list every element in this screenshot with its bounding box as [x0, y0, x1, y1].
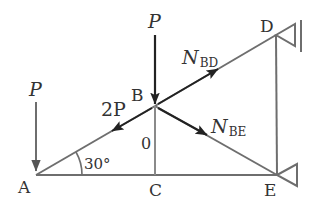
- angle-arc-icon: [76, 152, 82, 175]
- node-label-b: B: [131, 85, 144, 105]
- force-label-zero: 0: [141, 134, 151, 153]
- node-label-d: D: [260, 16, 274, 36]
- node-label-e: E: [264, 180, 276, 200]
- support-e: [277, 164, 297, 186]
- load-label-p-a: P: [28, 78, 43, 100]
- force-label-2p: 2P: [101, 98, 126, 120]
- force-arrow-nbe: [158, 108, 207, 135]
- member-de: [276, 35, 277, 175]
- pin-support-icon: [276, 24, 295, 46]
- force-label-nbd: NBD: [181, 46, 218, 70]
- force-arrow-nbd: [158, 69, 218, 104]
- support-d: [276, 20, 301, 52]
- node-label-c: C: [149, 180, 162, 200]
- angle-label: 30°: [84, 155, 111, 173]
- load-label-p-b: P: [147, 10, 162, 32]
- force-label-nbe: NBE: [210, 115, 246, 139]
- truss-members: [36, 35, 277, 175]
- truss-diagram: A B C D E P P NBD NBE 2P 0 30°: [0, 0, 326, 211]
- node-label-a: A: [17, 177, 31, 197]
- pin-support-icon: [277, 164, 297, 186]
